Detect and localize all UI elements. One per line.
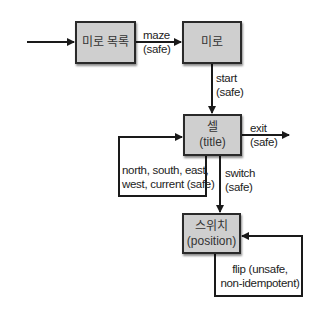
node-switch: 스위치 (position): [182, 213, 241, 254]
node-label: 미로 목록: [82, 35, 129, 50]
edge-label-line: (safe): [216, 85, 244, 99]
edge-label-line: start: [216, 71, 244, 85]
edge-label-line: (safe): [225, 180, 255, 194]
edge-label-line: (safe): [250, 135, 278, 149]
edge-label-line: maze: [143, 28, 171, 42]
node-label: 셀: [207, 120, 218, 135]
edge-label-line: west, current (safe): [122, 177, 206, 191]
edge-label-directions: north, south, east, west, current (safe): [122, 163, 206, 191]
edge-label-switch: switch (safe): [225, 166, 255, 194]
node-sublabel: (position): [187, 234, 236, 249]
edge-label-start: start (safe): [216, 71, 244, 99]
edge-label-line: switch: [225, 166, 255, 180]
node-maze: 미로: [182, 21, 242, 64]
node-sublabel: (title): [199, 135, 226, 150]
edge-label-line: north, south, east,: [122, 163, 206, 177]
edge-label-line: flip (unsafe,: [218, 262, 302, 276]
node-label: 스위치: [195, 219, 228, 234]
edge-label-maze: maze (safe): [143, 28, 171, 56]
edge-label-line: non-idempotent): [218, 276, 302, 290]
edge-label-exit: exit (safe): [250, 121, 278, 149]
node-maze-list: 미로 목록: [75, 21, 136, 64]
edge-label-line: (safe): [143, 42, 171, 56]
edge-label-flip: flip (unsafe, non-idempotent): [218, 262, 302, 290]
edge-label-line: exit: [250, 121, 278, 135]
node-cell: 셀 (title): [183, 114, 242, 156]
node-label: 미로: [201, 35, 223, 50]
